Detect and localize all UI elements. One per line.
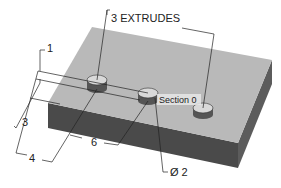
dim-3-label: 3 [22,116,28,128]
diameter-label: Ø 2 [170,166,188,178]
boss-3 [193,103,213,119]
dim-6-label: 6 [91,136,97,148]
dim-4-label: 4 [29,152,35,164]
dim-1-label: 1 [47,42,53,54]
boss-2 [138,88,158,105]
section-label: Section 0 [159,95,197,105]
extrudes-label: 3 EXTRUDES [111,12,180,24]
part-drawing: Section 0 3 EXTRUDES 1 3 4 6 Ø 2 [0,0,281,188]
